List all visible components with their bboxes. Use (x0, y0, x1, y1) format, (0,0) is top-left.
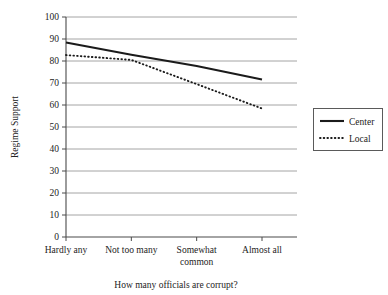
x-axis-tick-label: Not too many (105, 245, 157, 255)
x-axis-tick-label: Somewhat (177, 245, 217, 255)
chart-container: 0102030405060708090100 Hardly anyNot too… (0, 0, 388, 295)
y-axis-tick-label: 90 (50, 34, 60, 44)
y-axis-tick-label: 30 (50, 166, 60, 176)
y-axis-tick-label: 60 (50, 100, 60, 110)
x-axis-tick-label: common (180, 257, 213, 267)
y-axis-tick-label: 0 (54, 232, 59, 242)
x-axis-tick-label: Hardly any (45, 245, 88, 255)
y-axis-tick-label: 10 (50, 210, 60, 220)
y-axis-tick-label: 20 (50, 188, 60, 198)
x-axis-title: How many officials are corrupt? (114, 280, 237, 290)
legend-box (314, 109, 383, 151)
y-axis-tick-label: 40 (50, 144, 60, 154)
y-axis-tick-label: 50 (50, 122, 60, 132)
regime-support-line-chart: 0102030405060708090100 Hardly anyNot too… (0, 0, 388, 295)
y-axis-tick-label: 80 (50, 56, 60, 66)
y-axis-tick-label: 100 (45, 12, 60, 22)
y-axis-tick-label: 70 (50, 78, 60, 88)
legend-label-local: Local (349, 134, 371, 144)
y-axis-title: Regime Support (10, 96, 20, 158)
legend-label-center: Center (349, 117, 375, 127)
x-axis-tick-label: Almost all (242, 245, 282, 255)
